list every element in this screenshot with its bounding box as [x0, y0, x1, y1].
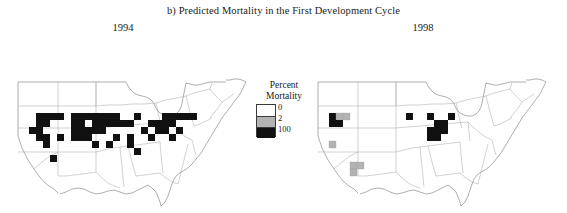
mortality-cell: [85, 113, 92, 120]
mortality-cell: [336, 120, 343, 127]
mortality-cell: [350, 169, 357, 176]
mortality-cell: [448, 113, 455, 120]
mortality-cell: [190, 113, 197, 120]
mortality-cell-layer-1994: [29, 113, 197, 162]
mortality-cell: [127, 134, 134, 141]
mortality-cell: [169, 113, 176, 120]
mortality-cell: [169, 120, 176, 127]
mortality-cell: [406, 113, 413, 120]
legend-tick-2: 100: [278, 124, 312, 135]
mortality-cell: [78, 127, 85, 134]
mortality-cell: [113, 120, 120, 127]
mortality-cell: [106, 120, 113, 127]
mortality-cell: [155, 127, 162, 134]
legend-title-line1: Percent: [253, 80, 315, 91]
mortality-cell: [162, 120, 169, 127]
figure-panel: b) Predicted Mortality in the First Deve…: [0, 0, 567, 213]
mortality-cell: [50, 113, 57, 120]
mortality-cell: [441, 127, 448, 134]
mortality-cell: [57, 113, 64, 120]
mortality-cell: [29, 127, 36, 134]
mortality-cell: [134, 113, 141, 120]
mortality-cell: [71, 113, 78, 120]
mortality-cell: [78, 113, 85, 120]
map-year-label-1998: 1998: [378, 22, 468, 33]
mortality-cell: [127, 120, 134, 127]
mortality-cell: [43, 141, 50, 148]
mortality-cell: [357, 162, 364, 169]
mortality-cell: [113, 134, 120, 141]
mortality-cell: [336, 113, 343, 120]
legend-tick-1: 2: [278, 113, 312, 124]
mortality-cell: [99, 127, 106, 134]
mortality-cell: [36, 134, 43, 141]
map-1998: [308, 36, 556, 208]
legend-color-ramp: 02100: [256, 104, 312, 138]
mortality-cell: [148, 134, 155, 141]
mortality-cell: [71, 120, 78, 127]
mortality-cell: [43, 120, 50, 127]
mortality-cell: [50, 155, 57, 162]
legend-swatch-column: [256, 104, 276, 137]
mortality-cell: [36, 120, 43, 127]
mortality-cell: [92, 120, 99, 127]
mortality-cell: [162, 113, 169, 120]
mortality-cell: [183, 113, 190, 120]
mortality-cell: [78, 120, 85, 127]
legend: Percent Mortality 02100: [253, 80, 315, 138]
mortality-cell: [329, 113, 336, 120]
mortality-cell: [329, 141, 336, 148]
mortality-cell: [92, 113, 99, 120]
mortality-cell: [57, 134, 64, 141]
mortality-cell: [434, 127, 441, 134]
mortality-cell: [427, 113, 434, 120]
mortality-cell: [350, 162, 357, 169]
mortality-cell: [427, 134, 434, 141]
mortality-cell-layer-1998: [329, 113, 455, 176]
mortality-cell: [329, 120, 336, 127]
mortality-cell: [427, 127, 434, 134]
mortality-cell: [134, 148, 141, 155]
mortality-cell: [36, 113, 43, 120]
mortality-cell: [434, 134, 441, 141]
map-1994: [8, 36, 256, 208]
mortality-cell: [169, 134, 176, 141]
mortality-cell: [92, 141, 99, 148]
mortality-cell: [43, 113, 50, 120]
mortality-cell: [176, 113, 183, 120]
mortality-cell: [36, 127, 43, 134]
mortality-cell: [99, 120, 106, 127]
mortality-cell: [120, 120, 127, 127]
mortality-cell: [106, 113, 113, 120]
legend-swatch-2: [257, 127, 275, 138]
mortality-cell: [85, 134, 92, 141]
legend-tick-0: 0: [278, 102, 312, 113]
mortality-cell: [162, 127, 169, 134]
mortality-cell: [343, 113, 350, 120]
mortality-cell: [127, 141, 134, 148]
mortality-cell: [99, 113, 106, 120]
mortality-cell: [43, 134, 50, 141]
mortality-cell: [441, 120, 448, 127]
mortality-cell: [71, 127, 78, 134]
mortality-cell: [71, 134, 78, 141]
mortality-cell: [148, 120, 155, 127]
mortality-cell: [85, 127, 92, 134]
map-1994-svg: [8, 36, 256, 208]
mortality-cell: [113, 113, 120, 120]
mortality-cell: [141, 127, 148, 134]
map-1998-svg: [308, 36, 556, 208]
basemap-outline: [318, 79, 546, 206]
legend-title-line2: Mortality: [253, 91, 315, 102]
mortality-cell: [92, 127, 99, 134]
page-title: b) Predicted Mortality in the First Deve…: [0, 5, 567, 16]
mortality-cell: [106, 141, 113, 148]
mortality-cell: [434, 120, 441, 127]
legend-tick-labels: 02100: [278, 102, 312, 135]
legend-swatch-1: [257, 116, 275, 127]
mortality-cell: [78, 134, 85, 141]
map-year-label-1994: 1994: [78, 22, 168, 33]
mortality-cell: [155, 120, 162, 127]
mortality-cell: [176, 127, 183, 134]
legend-swatch-0: [257, 105, 275, 116]
